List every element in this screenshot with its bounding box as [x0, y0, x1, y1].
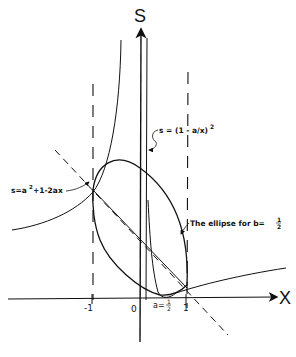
s-axis-label: S [134, 6, 146, 26]
tick-a-label: a= [153, 301, 165, 310]
hyperbola-right-branch [148, 200, 286, 297]
tick-a-den: 2 [167, 305, 171, 312]
tick-one: 1 [183, 303, 189, 313]
line-label: s=a [11, 186, 27, 195]
hyperbola-label-exp: 2 [210, 123, 214, 130]
tick-neg-one: -1 [84, 303, 93, 313]
tick-a-num: 1 [167, 298, 171, 305]
dashed-tangent-line [55, 150, 228, 335]
x-axis-label: X [279, 288, 291, 308]
x-axis [8, 297, 276, 299]
hyperbola-label: s = (1 - a/x) [159, 126, 208, 135]
hyperbola-asymptote-line [146, 38, 147, 300]
diagram-canvas: S X -1 0 1 a= 1 2 s = (1 - a/x) 2 s=a 2 … [0, 0, 296, 357]
tick-zero: 0 [131, 304, 137, 314]
line-pointer-arrow [66, 182, 89, 191]
ellipse-label-num: 1 [277, 216, 281, 223]
ellipse-label: The ellipse for b= [190, 219, 265, 228]
ellipse-label-den: 2 [277, 223, 281, 230]
hyperbola-pointer-arrow [149, 130, 158, 150]
s-axis [140, 30, 141, 342]
line-label-rest: +1-2ax [33, 186, 63, 195]
